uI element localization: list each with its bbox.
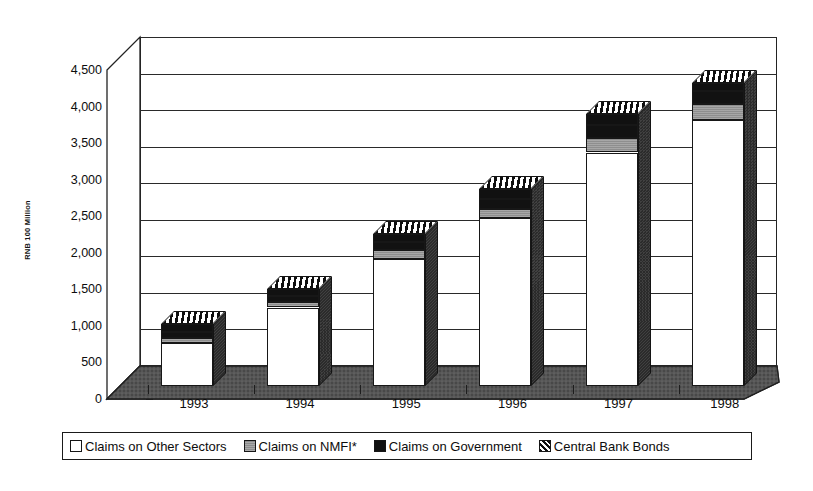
legend-label: Claims on NMFI* [259, 440, 357, 453]
bar-segment [692, 104, 744, 119]
bar-segment [586, 138, 638, 153]
y-tick-label: 3,000 [50, 174, 102, 186]
bar-segment [373, 259, 425, 387]
x-tick-mark [254, 385, 255, 394]
gridline [140, 329, 777, 330]
legend-label: Claims on Other Sectors [85, 440, 227, 453]
gridline [140, 183, 777, 184]
bar-column [373, 30, 425, 390]
y-axis-ticks: 05001,0001,5002,0002,5003,0003,5004,0004… [46, 0, 102, 491]
y-axis-title: RNB 100 Million [20, 65, 36, 175]
x-tick-mark [148, 385, 149, 394]
bar-column [479, 30, 531, 390]
bar-side-face [531, 176, 544, 386]
x-tick-mark [573, 385, 574, 394]
legend-item[interactable]: Claims on Other Sectors [70, 440, 227, 453]
bar-segment [267, 308, 319, 387]
legend-swatch-icon [374, 440, 386, 452]
bar-segment [586, 125, 638, 138]
bar-segment-cap [267, 289, 319, 296]
y-tick-label: 500 [50, 356, 102, 368]
legend-item[interactable]: Claims on Government [374, 440, 522, 453]
bar-side-face [744, 70, 757, 386]
plot-backwall [140, 37, 777, 366]
gridline [140, 74, 777, 75]
bar-segment [479, 218, 531, 386]
y-tick-label: 1,000 [50, 320, 102, 332]
bar-segment-cap [692, 83, 744, 91]
bar-segment [586, 153, 638, 387]
y-tick-label: 0 [50, 393, 102, 405]
x-tick-label: 1994 [265, 396, 335, 411]
x-tick-mark [466, 385, 467, 394]
y-tick-label: 2,000 [50, 247, 102, 259]
legend-label: Claims on Government [389, 440, 522, 453]
y-tick-label: 1,500 [50, 283, 102, 295]
chart-container: RNB 100 Million 05001,0001,5002,0002,500… [0, 0, 813, 491]
legend-swatch-icon [539, 440, 551, 452]
bar-segment-cap [479, 189, 531, 199]
x-tick-label: 1995 [371, 396, 441, 411]
bar-column [161, 30, 213, 390]
legend-swatch-icon [70, 440, 82, 452]
bar-column [692, 30, 744, 390]
x-tick-mark [360, 385, 361, 394]
bar-segment [161, 343, 213, 387]
bar-side-face [319, 276, 332, 386]
gridline [140, 220, 777, 221]
plot-area [107, 30, 779, 390]
left-wall [107, 37, 140, 399]
x-tick-label: 1997 [584, 396, 654, 411]
legend-swatch-icon [244, 440, 256, 452]
bar-segment [373, 242, 425, 250]
y-tick-label: 3,500 [50, 137, 102, 149]
y-tick-label: 4,500 [50, 64, 102, 76]
gridline [140, 147, 777, 148]
bar-side-face [425, 221, 438, 386]
bar-segment-cap [373, 234, 425, 242]
gridline [140, 293, 777, 294]
gridline [140, 256, 777, 257]
bar-segment [479, 199, 531, 209]
x-tick-label: 1998 [690, 396, 760, 411]
bar-column [267, 30, 319, 390]
y-tick-label: 2,500 [50, 210, 102, 222]
bar-side-face [638, 101, 651, 386]
bar-segment [161, 332, 213, 339]
gridline [140, 37, 777, 38]
bar-segment [479, 209, 531, 219]
bar-segment [373, 250, 425, 258]
bar-segment-cap [161, 324, 213, 331]
y-axis-title-label: RNB 100 Million [20, 175, 36, 285]
bar-column [586, 30, 638, 390]
bar-segment [267, 296, 319, 303]
x-tick-label: 1996 [477, 396, 547, 411]
legend-label: Central Bank Bonds [554, 440, 670, 453]
y-tick-label: 4,000 [50, 101, 102, 113]
bar-segment [692, 120, 744, 387]
chart-legend: Claims on Other SectorsClaims on NMFI*Cl… [62, 432, 752, 460]
x-tick-mark [679, 385, 680, 394]
bar-segment [267, 302, 319, 307]
bar-segment-cap [586, 114, 638, 124]
gridline [140, 110, 777, 111]
bar-segment [161, 338, 213, 342]
legend-item[interactable]: Central Bank Bonds [539, 440, 670, 453]
bar-segment [692, 91, 744, 104]
x-tick-label: 1993 [159, 396, 229, 411]
legend-item[interactable]: Claims on NMFI* [244, 440, 357, 453]
